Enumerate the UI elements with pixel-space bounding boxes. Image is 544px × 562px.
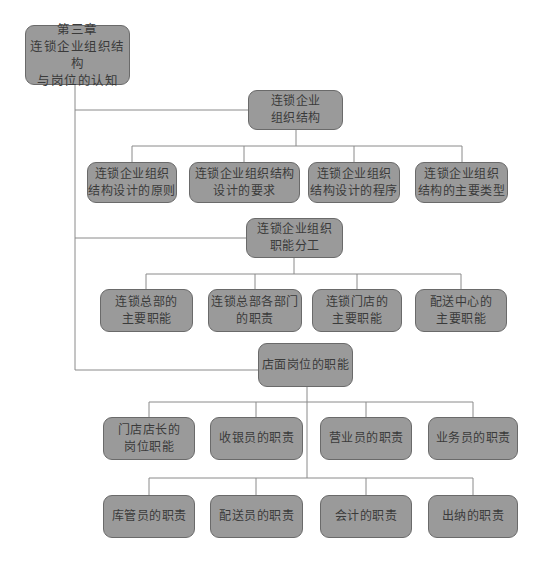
node-design-procedure: 连锁企业组织 结构设计的程序 <box>308 162 400 203</box>
org-chart: 第三章 连锁企业组织结构 与岗位的认知 连锁企业 组织结构 连锁企业组织 结构设… <box>0 0 544 562</box>
node-store-manager: 门店店长的 岗位职能 <box>103 417 195 460</box>
node-accountant: 会计的职责 <box>320 495 412 538</box>
node-business-staff: 业务员的职责 <box>428 417 518 460</box>
node-hq-dept-duties: 连锁总部各部门 的职责 <box>208 289 302 332</box>
section-org-structure: 连锁企业 组织结构 <box>248 90 343 130</box>
node-design-requirements: 连锁企业组织结构 设计的要求 <box>189 162 300 203</box>
section-function-division: 连锁企业组织 职能分工 <box>246 218 343 258</box>
node-main-types: 连锁企业组织 结构的主要类型 <box>415 162 508 203</box>
node-cashier: 收银员的职责 <box>210 417 303 460</box>
node-distribution-center-functions: 配送中心的 主要职能 <box>415 289 507 332</box>
node-store-functions: 连锁门店的 主要职能 <box>312 289 402 332</box>
node-cashier-treasurer: 出纳的职责 <box>428 495 518 538</box>
node-salesperson: 营业员的职责 <box>320 417 412 460</box>
node-warehouse-keeper: 库管员的职责 <box>103 495 195 538</box>
root-node: 第三章 连锁企业组织结构 与岗位的认知 <box>25 25 130 85</box>
node-hq-functions: 连锁总部的 主要职能 <box>100 289 193 332</box>
node-design-principles: 连锁企业组织 结构设计的原则 <box>87 162 177 203</box>
section-store-positions: 店面岗位的职能 <box>258 343 353 387</box>
node-delivery-staff: 配送员的职责 <box>210 495 303 538</box>
